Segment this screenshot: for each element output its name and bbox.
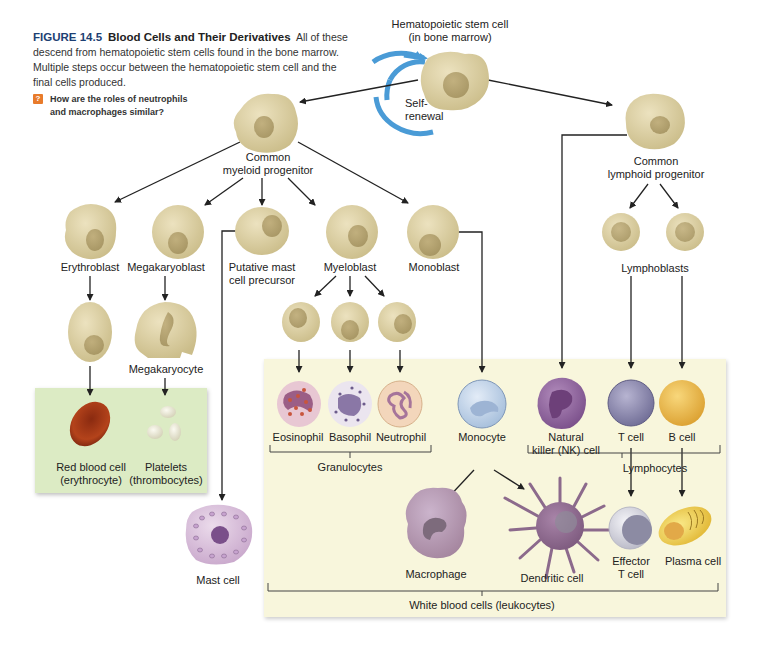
label-erythroblast: Erythroblast bbox=[61, 261, 120, 274]
label-self-renewal-line1: Self- bbox=[405, 97, 444, 110]
plasma-cell bbox=[652, 499, 717, 553]
b-cell bbox=[659, 380, 705, 426]
megakaryoblast-cell bbox=[152, 205, 204, 259]
label-red-blood-cell: Red blood cell (erythrocyte) bbox=[56, 461, 126, 487]
label-monoblast: Monoblast bbox=[409, 261, 460, 274]
platelets bbox=[147, 406, 181, 441]
lymphoblast-cell-2 bbox=[666, 213, 704, 251]
effector-t-cell bbox=[609, 507, 652, 549]
label-b-cell: B cell bbox=[669, 431, 696, 444]
label-mast-precursor: Putative mast cell precursor bbox=[229, 261, 296, 287]
mast-precursor-cell bbox=[235, 207, 289, 255]
label-platelets: Platelets (thrombocytes) bbox=[129, 461, 202, 487]
label-platelets-line1: Platelets bbox=[129, 461, 202, 474]
label-effector-t-cell: Effector T cell bbox=[612, 555, 650, 581]
monocyte-cell bbox=[458, 380, 506, 428]
label-effector-line1: Effector bbox=[612, 555, 650, 568]
label-effector-line2: T cell bbox=[612, 568, 650, 581]
reticulocyte-cell bbox=[68, 302, 112, 362]
label-myeloid-line2: myeloid progenitor bbox=[223, 164, 314, 177]
label-macrophage: Macrophage bbox=[405, 568, 466, 581]
label-self-renewal: Self- renewal bbox=[405, 97, 444, 123]
label-stem-cell-line2: (in bone marrow) bbox=[392, 31, 509, 44]
erythroblast-cell bbox=[65, 204, 116, 259]
label-myeloid-progenitor: Common myeloid progenitor bbox=[223, 151, 314, 177]
label-lymphoblasts: Lymphoblasts bbox=[621, 262, 688, 275]
myelocyte-cell-3 bbox=[378, 302, 416, 342]
label-lymphocytes: Lymphocytes bbox=[623, 462, 687, 475]
label-neutrophil: Neutrophil bbox=[376, 431, 426, 444]
myelocyte-cell-2 bbox=[331, 302, 369, 342]
eosinophil-cell bbox=[277, 381, 321, 427]
megakaryocyte-cell bbox=[135, 302, 197, 358]
label-rbc-line2: (erythrocyte) bbox=[56, 474, 126, 487]
label-t-cell: T cell bbox=[618, 431, 644, 444]
self-renewal-arrow-top bbox=[390, 62, 425, 80]
label-myeloblast: Myeloblast bbox=[324, 261, 377, 274]
label-myeloid-line1: Common bbox=[223, 151, 314, 164]
myelocyte-cell-1 bbox=[282, 302, 320, 342]
label-mast-precursor-line1: Putative mast bbox=[229, 261, 296, 274]
label-eosinophil: Eosinophil bbox=[273, 431, 324, 444]
monoblast-cell bbox=[407, 205, 459, 259]
label-megakaryoblast: Megakaryoblast bbox=[127, 261, 205, 274]
label-stem-cell-line1: Hematopoietic stem cell bbox=[392, 18, 509, 31]
label-megakaryocyte: Megakaryocyte bbox=[129, 363, 204, 376]
label-leukocytes: White blood cells (leukocytes) bbox=[409, 599, 555, 612]
label-rbc-line1: Red blood cell bbox=[56, 461, 126, 474]
label-mast-precursor-line2: cell precursor bbox=[229, 274, 296, 287]
common-myeloid-progenitor bbox=[234, 94, 298, 153]
t-cell bbox=[608, 380, 654, 426]
lymphoblast-cell-1 bbox=[602, 213, 640, 251]
label-lymphoid-progenitor: Common lymphoid progenitor bbox=[608, 155, 705, 181]
diagram-graphics bbox=[0, 0, 761, 646]
label-nk-line1: Natural bbox=[532, 431, 600, 444]
label-mast-cell: Mast cell bbox=[196, 574, 239, 587]
basophil-cell bbox=[328, 381, 372, 427]
red-blood-cell bbox=[61, 394, 118, 454]
label-platelets-line2: (thrombocytes) bbox=[129, 474, 202, 487]
label-lymphoid-line1: Common bbox=[608, 155, 705, 168]
label-lymphoid-line2: lymphoid progenitor bbox=[608, 168, 705, 181]
neutrophil-cell bbox=[378, 381, 422, 427]
label-nk-line2: killer (NK) cell bbox=[532, 444, 600, 457]
label-monocyte: Monocyte bbox=[458, 431, 506, 444]
myeloblast-cell bbox=[326, 205, 378, 259]
label-self-renewal-line2: renewal bbox=[405, 110, 444, 123]
label-plasma-cell: Plasma cell bbox=[665, 555, 721, 568]
mast-cell bbox=[186, 505, 252, 565]
label-stem-cell: Hematopoietic stem cell (in bone marrow) bbox=[392, 18, 509, 44]
common-lymphoid-progenitor bbox=[626, 94, 685, 150]
nk-cell bbox=[537, 378, 586, 429]
label-granulocytes: Granulocytes bbox=[318, 461, 383, 474]
label-dendritic-cell: Dendritic cell bbox=[521, 572, 584, 585]
label-basophil: Basophil bbox=[329, 431, 371, 444]
macrophage-cell bbox=[406, 488, 467, 559]
label-nk-cell: Natural killer (NK) cell bbox=[532, 431, 600, 457]
